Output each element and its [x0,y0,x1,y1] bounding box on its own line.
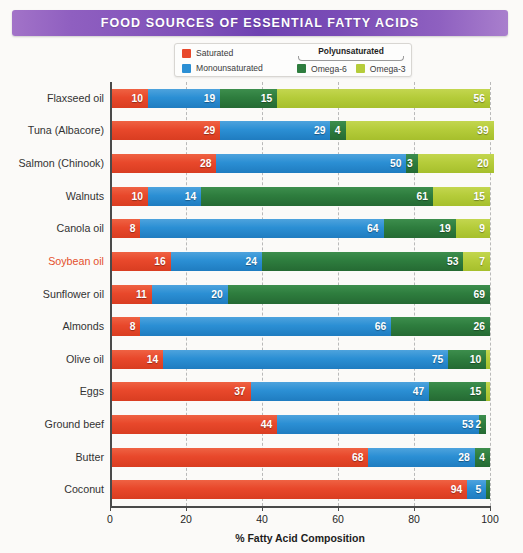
bar-segment-value: 16 [154,256,170,267]
bar-segment-omega3[interactable]: 56 [277,89,490,108]
bar-segment-value: 10 [132,191,148,202]
bar-segment-omega3[interactable]: 7 [463,252,490,271]
bar-row[interactable]: Walnuts10146115 [110,187,490,206]
bar-segment-saturated[interactable]: 28 [110,154,216,173]
x-tick-0 [110,506,111,511]
bar-segment-value: 4 [335,125,346,136]
bar-segment-omega6[interactable]: 2 [479,415,487,434]
bar-segment-value: 37 [234,386,250,397]
bar-segment-omega3[interactable] [486,350,490,369]
bar-segment-saturated[interactable]: 68 [110,448,368,467]
bar-row[interactable]: Butter68284 [110,448,490,467]
bar-segment-omega6[interactable]: 61 [201,187,433,206]
bar-segment-saturated[interactable]: 10 [110,89,148,108]
bar-segment-saturated[interactable]: 37 [110,382,251,401]
bar-segment-omega6[interactable]: 10 [448,350,486,369]
bar-segment-omega6[interactable]: 69 [228,285,490,304]
legend-column-polyunsaturated: Polyunsaturated Omega-6 Omega-3 [297,47,406,77]
bar-row-label: Flaxseed oil [47,89,104,108]
bar-row-label: Canola oil [56,219,104,238]
bar-segment-monounsaturated[interactable]: 66 [140,317,391,336]
bar-segment-omega3[interactable] [486,382,490,401]
bar-segment-omega3[interactable]: 20 [418,154,494,173]
bar-segment-value: 69 [474,289,490,300]
bar-row-label: Salmon (Chinook) [18,154,104,173]
bar-segment-value: 4 [479,452,490,463]
bar-segment-monounsaturated[interactable]: 24 [171,252,262,271]
bar-segment-monounsaturated[interactable]: 50 [216,154,406,173]
bar-segment-omega3[interactable]: 39 [346,121,494,140]
bar-row-label: Almonds [62,317,104,336]
legend-item-omega6: Omega-6 [297,62,347,75]
legend-item-saturated: Saturated [182,47,263,60]
bar-segment-monounsaturated[interactable]: 14 [148,187,201,206]
legend-label-omega3: Omega-3 [370,65,406,74]
bar-segment-value: 19 [439,223,455,234]
bar-segment-monounsaturated[interactable]: 19 [148,89,220,108]
bar-segment-monounsaturated[interactable]: 75 [163,350,448,369]
bar-segment-omega6[interactable]: 4 [330,121,345,140]
bar-segment-saturated[interactable]: 44 [110,415,277,434]
bar-segment-omega6[interactable]: 26 [391,317,490,336]
bar-segment-value: 8 [130,321,141,332]
bar-segment-value: 10 [132,93,148,104]
bar-row[interactable]: Tuna (Albacore)2929439 [110,121,490,140]
bar-row-label: Coconut [64,480,104,499]
omega6-swatch-icon [297,64,306,73]
bar-segment-saturated[interactable]: 16 [110,252,171,271]
bar-segment-value: 56 [474,93,490,104]
bar-segment-monounsaturated[interactable]: 29 [220,121,330,140]
saturated-swatch-icon [182,49,191,58]
chart-page: FOOD SOURCES OF ESSENTIAL FATTY ACIDS Sa… [0,0,523,553]
bar-segment-value: 28 [200,158,216,169]
bar-segment-omega6[interactable]: 4 [475,448,490,467]
bar-segment-monounsaturated[interactable]: 5 [467,480,486,499]
bar-segment-monounsaturated[interactable]: 20 [152,285,228,304]
bar-segment-monounsaturated[interactable]: 28 [368,448,474,467]
bar-segment-value: 47 [413,386,429,397]
bar-segment-monounsaturated[interactable]: 53 [277,415,478,434]
bar-row[interactable]: Canola oil864199 [110,219,490,238]
bar-segment-saturated[interactable]: 94 [110,480,467,499]
bar-row[interactable]: Salmon (Chinook)2850320 [110,154,490,173]
page-title: FOOD SOURCES OF ESSENTIAL FATTY ACIDS [101,16,419,30]
bar-row[interactable]: Flaxseed oil10191556 [110,89,490,108]
x-tick-80 [414,506,415,511]
x-tick-label-60: 60 [332,513,344,525]
bar-segment-value: 11 [136,289,152,300]
bar-segment-value: 7 [479,256,490,267]
omega3-swatch-icon [356,64,365,73]
bar-row[interactable]: Almonds86626 [110,317,490,336]
bar-segment-saturated[interactable]: 8 [110,317,140,336]
bar-segment-omega6[interactable] [486,480,490,499]
bar-segment-monounsaturated[interactable]: 47 [251,382,430,401]
bar-segment-value: 39 [477,125,493,136]
bar-segment-omega6[interactable]: 19 [384,219,456,238]
bar-segment-saturated[interactable]: 11 [110,285,152,304]
bar-row[interactable]: Soybean oil1624537 [110,252,490,271]
bar-segment-saturated[interactable]: 10 [110,187,148,206]
bar-segment-omega6[interactable]: 53 [262,252,463,271]
chart-legend: Saturated Monounsaturated Polyunsaturate… [174,43,412,77]
bar-segment-omega3[interactable]: 15 [433,187,490,206]
bar-segment-value: 26 [474,321,490,332]
bar-segment-value: 75 [432,354,448,365]
bar-row[interactable]: Eggs374715 [110,382,490,401]
bar-segment-omega6[interactable]: 15 [220,89,277,108]
legend-polyunsaturated-items: Omega-6 Omega-3 [297,62,406,77]
bar-row[interactable]: Sunflower oil112069 [110,285,490,304]
bar-segment-omega3[interactable]: 9 [456,219,490,238]
x-tick-label-20: 20 [180,513,192,525]
bar-row[interactable]: Olive oil147510 [110,350,490,369]
bar-segment-saturated[interactable]: 29 [110,121,220,140]
bar-segment-saturated[interactable]: 14 [110,350,163,369]
bar-segment-omega6[interactable]: 15 [429,382,486,401]
bar-row[interactable]: Coconut945 [110,480,490,499]
bar-segment-value: 44 [261,419,277,430]
bar-segment-omega6[interactable]: 3 [406,154,417,173]
bar-segment-saturated[interactable]: 8 [110,219,140,238]
bar-row[interactable]: Ground beef44532 [110,415,490,434]
bar-segment-value: 3 [407,158,418,169]
y-axis-line [110,82,112,506]
bar-segment-monounsaturated[interactable]: 64 [140,219,383,238]
